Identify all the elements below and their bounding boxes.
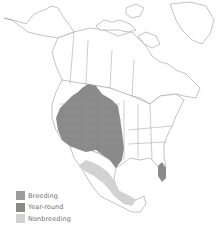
breeding-swatch <box>16 191 25 200</box>
legend-item-year-round: Year-round <box>16 202 71 214</box>
map-legend: Breeding Year-round Nonbreeding <box>16 190 71 225</box>
legend-label: Nonbreeding <box>28 215 71 223</box>
greenland-outline <box>170 2 214 44</box>
arctic-islands <box>96 20 136 32</box>
nonbreeding-swatch <box>16 214 25 223</box>
legend-label: Breeding <box>28 192 58 200</box>
year-round-swatch <box>16 203 25 212</box>
legend-item-breeding: Breeding <box>16 190 71 202</box>
alaska-outline <box>4 6 74 38</box>
legend-label: Year-round <box>28 203 64 211</box>
legend-item-nonbreeding: Nonbreeding <box>16 213 71 225</box>
